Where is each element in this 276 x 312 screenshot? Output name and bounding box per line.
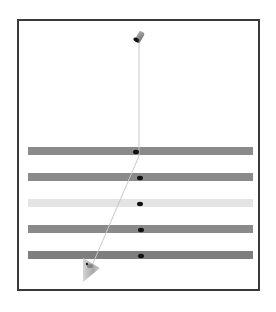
bar-dot-4 <box>138 228 144 232</box>
cone-receiver-icon <box>83 258 100 282</box>
bar-dot-2 <box>137 176 143 180</box>
bar-dot-3 <box>137 202 143 206</box>
bar-dot-5 <box>138 254 144 258</box>
bar-dot-1 <box>133 150 139 154</box>
scene-canvas <box>0 0 276 312</box>
cylinder-emitter-icon <box>133 30 145 43</box>
bar-1 <box>28 147 253 155</box>
